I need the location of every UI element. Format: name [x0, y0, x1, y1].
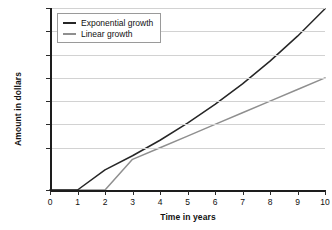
y-tick — [46, 124, 50, 125]
line-chart: Amount in dollars 01,2001,4001,6001,8002… — [0, 0, 332, 230]
y-tick — [46, 78, 50, 79]
x-tick-label: 5 — [176, 197, 200, 207]
x-tick-label: 6 — [203, 197, 227, 207]
x-tick-label: 3 — [121, 197, 145, 207]
x-tick-label: 1 — [66, 197, 90, 207]
gridline — [50, 124, 325, 125]
x-tick — [160, 191, 161, 195]
x-axis-title: Time in years — [50, 212, 326, 222]
chart-legend: Exponential growth Linear growth — [57, 13, 161, 43]
legend-item-exponential: Exponential growth — [63, 17, 153, 28]
legend-label-exponential: Exponential growth — [81, 18, 153, 28]
x-tick — [325, 191, 326, 195]
gridline — [50, 148, 325, 149]
x-tick-label: 4 — [148, 197, 172, 207]
y-tick — [46, 101, 50, 102]
x-tick-label: 2 — [93, 197, 117, 207]
x-tick — [133, 191, 134, 195]
x-tick-label: 7 — [231, 197, 255, 207]
x-tick — [270, 191, 271, 195]
y-tick — [46, 8, 50, 9]
legend-item-linear: Linear growth — [63, 28, 153, 39]
x-tick — [105, 191, 106, 195]
x-tick — [243, 191, 244, 195]
x-tick-label: 0 — [38, 197, 62, 207]
x-tick — [78, 191, 79, 195]
x-tick-label: 10 — [313, 197, 332, 207]
series-line — [50, 78, 325, 190]
x-tick-label: 9 — [286, 197, 310, 207]
legend-swatch-exponential — [63, 22, 76, 24]
gridline — [50, 78, 325, 79]
legend-swatch-linear — [63, 33, 76, 35]
x-tick — [215, 191, 216, 195]
x-tick-label: 8 — [258, 197, 282, 207]
x-tick — [298, 191, 299, 195]
gridline — [50, 101, 325, 102]
y-tick — [46, 55, 50, 56]
y-axis-line — [50, 8, 52, 191]
y-axis-title: Amount in dollars — [13, 44, 23, 174]
gridline — [50, 55, 325, 56]
x-tick — [50, 191, 51, 195]
x-tick — [188, 191, 189, 195]
y-tick — [46, 148, 50, 149]
gridline — [50, 8, 325, 9]
y-tick — [46, 31, 50, 32]
legend-label-linear: Linear growth — [81, 29, 133, 39]
